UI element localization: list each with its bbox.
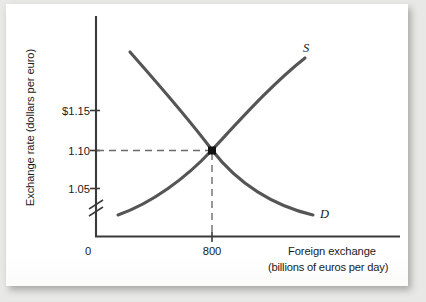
y-axis-title: Exchange rate (dollars per euro) [25, 23, 36, 233]
equilibrium-point-marker [208, 147, 216, 155]
x-tick-label-800: 800 [194, 246, 230, 257]
y-tick-label-115: $1.15 [44, 106, 90, 117]
y-tick-label-105: 1.05 [44, 184, 90, 195]
demand-curve-label: D [320, 208, 329, 221]
x-axis-title-line-1: Foreign exchange [288, 246, 376, 257]
supply-curve-label: S [303, 42, 309, 55]
origin-label: 0 [79, 246, 97, 257]
y-tick-label-110: 1.10 [44, 146, 90, 157]
supply-demand-figure: Exchange rate (dollars per euro) $1.15 1… [0, 0, 426, 302]
x-axis-title-line-2: (billions of euros per day) [268, 262, 388, 273]
